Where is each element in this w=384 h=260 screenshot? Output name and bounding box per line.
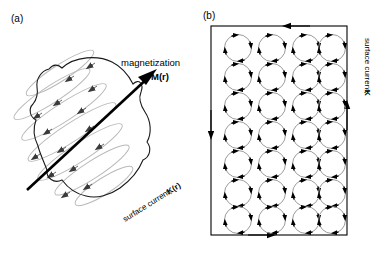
- panel-b-boundary: [211, 26, 347, 235]
- current-loop: [293, 93, 320, 120]
- panel-b-surface-current-label: surface current,: [363, 38, 372, 94]
- current-loop: [293, 64, 320, 91]
- current-loop: [319, 180, 346, 207]
- current-loop: [225, 35, 252, 62]
- current-loop: [293, 207, 320, 234]
- current-loop: [319, 93, 346, 120]
- current-loop: [225, 122, 252, 149]
- figure-container: magnetization M(r) surface current, K(r): [0, 0, 384, 260]
- circular-loop-grid: [225, 35, 346, 234]
- current-loop: [259, 151, 286, 178]
- current-loop: [225, 180, 252, 207]
- current-loop: [225, 151, 252, 178]
- current-loop: [259, 93, 286, 120]
- current-loop: [259, 35, 286, 62]
- current-loop: [259, 122, 286, 149]
- current-loop: [293, 35, 320, 62]
- current-loop: [293, 122, 320, 149]
- current-loop: [225, 207, 252, 234]
- current-loop: [259, 64, 286, 91]
- panel-b-surface-current-label-group: surface current, K: [363, 38, 372, 96]
- boundary-current-arrows: [211, 26, 347, 235]
- panel-b-surface-current-symbol: K: [363, 90, 372, 96]
- current-loop: [259, 180, 286, 207]
- current-loop: [319, 151, 346, 178]
- current-loop: [225, 93, 252, 120]
- current-loop: [293, 180, 320, 207]
- current-loop: [319, 64, 346, 91]
- current-loop: [259, 207, 286, 234]
- current-loop: [225, 64, 252, 91]
- panel-a-label: (a): [11, 13, 23, 24]
- current-loop: [293, 151, 320, 178]
- panel-b-graphics: surface current, K: [0, 0, 384, 260]
- panel-b-label: (b): [203, 10, 215, 21]
- current-loop: [319, 122, 346, 149]
- current-loop: [319, 207, 346, 234]
- current-loop: [319, 35, 346, 62]
